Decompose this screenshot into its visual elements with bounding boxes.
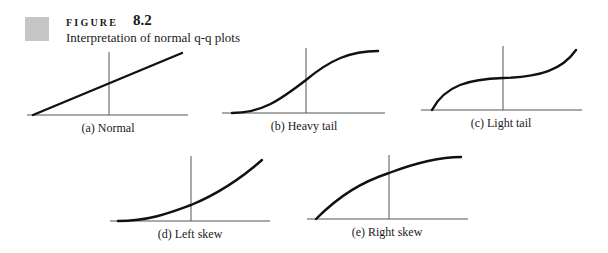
plot-light-tail (421, 46, 582, 110)
plot-label-light-tail: (c) Light tail (431, 116, 571, 131)
qq-curve (232, 51, 378, 113)
plot-label-normal: (a) Normal (38, 121, 178, 136)
plot-normal (27, 52, 188, 115)
plot-right-skew (307, 155, 468, 219)
plot-left-skew (110, 156, 270, 221)
plot-heavy-tail (222, 48, 385, 113)
qq-curve (432, 50, 576, 110)
plot-label-left-skew: (d) Left skew (120, 227, 260, 242)
plot-label-right-skew: (e) Right skew (317, 225, 457, 240)
qq-curve (33, 53, 182, 115)
qq-curve (118, 160, 262, 221)
plot-label-heavy-tail: (b) Heavy tail (234, 119, 374, 134)
